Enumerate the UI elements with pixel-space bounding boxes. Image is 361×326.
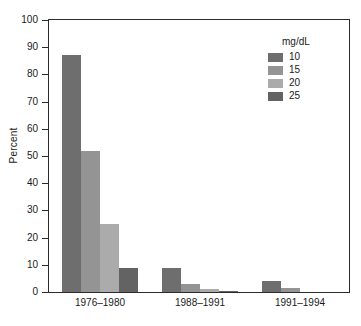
- y-tick-mark: [42, 20, 48, 21]
- bar: [119, 268, 138, 292]
- y-tick-mark: [42, 292, 48, 293]
- x-axis-label: 1991–1994: [260, 297, 340, 309]
- x-axis-label: 1988–1991: [160, 297, 240, 309]
- y-tick-label: 40: [0, 177, 38, 188]
- y-tick-mark: [42, 210, 48, 211]
- y-tick-mark: [42, 129, 48, 130]
- y-tick-mark: [42, 74, 48, 75]
- bar: [62, 55, 81, 292]
- bar: [162, 268, 181, 292]
- legend-label: 15: [289, 64, 300, 76]
- legend-item: 10: [268, 51, 348, 63]
- y-tick-label: 100: [0, 14, 38, 25]
- legend-item: 25: [268, 90, 348, 102]
- y-tick-label: 80: [0, 68, 38, 79]
- legend-entries: 10152025: [268, 51, 348, 102]
- bar: [200, 289, 219, 292]
- bar: [281, 288, 300, 292]
- y-tick-mark: [42, 183, 48, 184]
- bar: [81, 151, 100, 292]
- legend-item: 15: [268, 64, 348, 76]
- y-tick-label: 30: [0, 204, 38, 215]
- y-tick-label: 70: [0, 96, 38, 107]
- legend-label: 10: [289, 51, 300, 63]
- y-tick-mark: [42, 102, 48, 103]
- y-tick-label: 20: [0, 232, 38, 243]
- bar: [219, 291, 238, 292]
- y-tick-label: 10: [0, 259, 38, 270]
- legend-label: 25: [289, 90, 300, 102]
- x-axis-label: 1976–1980: [60, 297, 140, 309]
- legend: mg/dL 10152025: [268, 36, 348, 103]
- y-tick-mark: [42, 238, 48, 239]
- y-tick-label: 0: [0, 286, 38, 297]
- bar: [181, 284, 200, 292]
- y-tick-mark: [42, 265, 48, 266]
- legend-label: 20: [289, 77, 300, 89]
- y-axis-title: Percent: [8, 111, 19, 181]
- legend-swatch: [268, 79, 283, 88]
- bar: [262, 281, 281, 292]
- y-tick-label: 50: [0, 150, 38, 161]
- legend-item: 20: [268, 77, 348, 89]
- legend-swatch: [268, 66, 283, 75]
- y-tick-label: 90: [0, 41, 38, 52]
- bar-chart: Percent 0102030405060708090100 1976–1980…: [0, 0, 361, 326]
- legend-title: mg/dL: [282, 36, 348, 48]
- legend-swatch: [268, 53, 283, 62]
- y-tick-mark: [42, 47, 48, 48]
- legend-swatch: [268, 92, 283, 101]
- y-tick-mark: [42, 156, 48, 157]
- y-tick-label: 60: [0, 123, 38, 134]
- bar: [100, 224, 119, 292]
